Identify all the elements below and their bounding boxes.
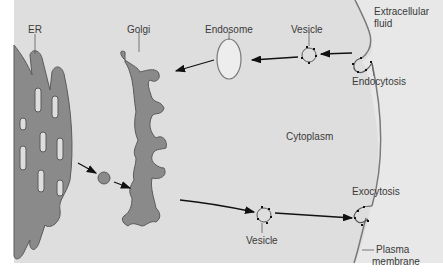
- label-golgi: Golgi: [127, 24, 150, 35]
- vesicle-bottom: [257, 208, 271, 222]
- label-membrane: membrane: [372, 256, 420, 267]
- label-exocytosis: Exocytosis: [352, 186, 400, 197]
- label-endocytosis: Endocytosis: [352, 76, 406, 87]
- label-plasma: Plasma: [376, 244, 409, 255]
- vesicle-top: [302, 48, 316, 62]
- label-vesicle-top: Vesicle: [291, 24, 323, 35]
- diagram-canvas: [0, 0, 443, 279]
- label-extracellular: Extracellular: [374, 6, 429, 17]
- label-fluid: fluid: [374, 18, 392, 29]
- label-er: ER: [28, 24, 42, 35]
- endosome: [217, 39, 241, 79]
- label-endosome: Endosome: [205, 24, 253, 35]
- label-vesicle-bottom: Vesicle: [246, 235, 278, 246]
- label-cytoplasm: Cytoplasm: [286, 131, 333, 142]
- cell-transport-diagram: ER Golgi Endosome Vesicle Extracellular …: [0, 0, 443, 279]
- transport-vesicle: [98, 172, 110, 184]
